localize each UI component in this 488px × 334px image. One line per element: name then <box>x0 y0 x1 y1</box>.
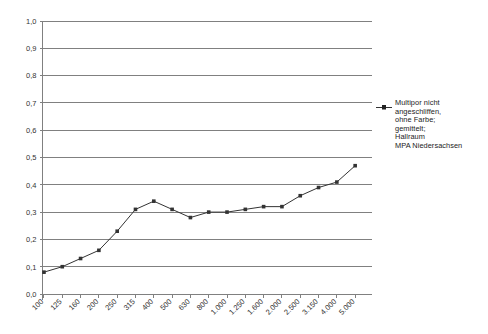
svg-text:0,7: 0,7 <box>26 99 36 108</box>
svg-text:5.000: 5.000 <box>337 297 357 317</box>
svg-text:0,8: 0,8 <box>26 71 36 80</box>
svg-text:0,2: 0,2 <box>26 235 36 244</box>
svg-text:4.000: 4.000 <box>319 297 339 317</box>
svg-text:0,5: 0,5 <box>26 153 36 162</box>
chart-canvas: 1,00,90,80,70,60,50,40,30,20,10,0 100125… <box>0 0 488 334</box>
svg-text:0,1: 0,1 <box>26 263 36 272</box>
svg-text:160: 160 <box>67 297 82 312</box>
svg-text:315: 315 <box>122 297 137 312</box>
y-axis-tick-labels: 1,00,90,80,70,60,50,40,30,20,10,0 <box>26 17 36 299</box>
x-axis-tick-labels: 1001251602002503154005006308001.0001.250… <box>30 297 356 317</box>
svg-text:200: 200 <box>85 297 100 312</box>
data-point-markers <box>42 164 357 274</box>
absorption-coefficient-chart: 1,00,90,80,70,60,50,40,30,20,10,0 100125… <box>0 0 488 334</box>
svg-text:125: 125 <box>48 297 63 312</box>
svg-text:250: 250 <box>103 297 118 312</box>
legend-marker-icon <box>376 104 392 111</box>
svg-text:2.000: 2.000 <box>264 297 284 317</box>
svg-text:630: 630 <box>177 297 192 312</box>
svg-text:0,0: 0,0 <box>26 290 36 299</box>
x-axis <box>43 294 373 298</box>
svg-text:1.250: 1.250 <box>227 297 247 317</box>
svg-text:0,3: 0,3 <box>26 208 36 217</box>
svg-text:500: 500 <box>158 297 173 312</box>
data-series-line <box>44 166 355 272</box>
gridlines <box>40 21 373 294</box>
svg-text:0,9: 0,9 <box>26 44 36 53</box>
svg-text:400: 400 <box>140 297 155 312</box>
svg-text:2.500: 2.500 <box>282 297 302 317</box>
svg-text:1.000: 1.000 <box>209 297 229 317</box>
svg-text:1,0: 1,0 <box>26 17 36 26</box>
legend-entry-label: Multipor nicht angeschliffen, ohne Farbe… <box>395 99 462 151</box>
svg-text:0,6: 0,6 <box>26 126 36 135</box>
svg-text:100: 100 <box>30 297 45 312</box>
svg-text:3.150: 3.150 <box>300 297 320 317</box>
svg-text:0,4: 0,4 <box>26 181 36 190</box>
svg-text:1.600: 1.600 <box>245 297 265 317</box>
